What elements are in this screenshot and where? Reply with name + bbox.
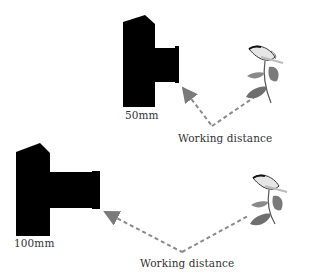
camera-100mm-icon <box>16 143 100 236</box>
working-distance-arrow-50mm <box>183 88 256 126</box>
working-distance-arrow-100mm <box>105 212 248 252</box>
butterfly-on-plant-icon <box>246 46 283 103</box>
butterfly-on-plant-icon <box>250 175 287 225</box>
working-distance-label-50mm: Working distance <box>178 132 272 144</box>
camera-50mm-icon <box>123 15 179 107</box>
working-distance-label-100mm: Working distance <box>140 257 234 269</box>
lens-label-100mm: 100mm <box>14 237 54 249</box>
lens-label-50mm: 50mm <box>125 109 159 121</box>
